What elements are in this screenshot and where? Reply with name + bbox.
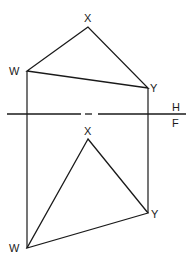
front-view-triangle	[27, 139, 148, 248]
top-label-y: Y	[150, 82, 158, 94]
front-label-w: W	[9, 242, 20, 254]
fold-label-f: F	[172, 117, 179, 129]
projection-diagram: H F X W Y X W Y	[0, 0, 193, 262]
front-label-y: Y	[151, 208, 159, 220]
top-label-w: W	[9, 65, 20, 77]
fold-label-h: H	[172, 101, 180, 113]
front-label-x: X	[84, 125, 92, 137]
top-view-triangle	[27, 27, 148, 88]
top-label-x: X	[84, 12, 92, 24]
